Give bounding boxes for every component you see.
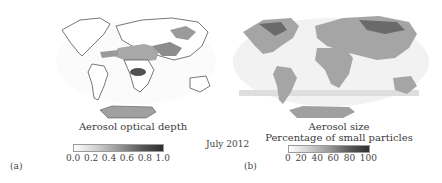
panel-a: Aerosol optical depth 0.0 0.2 0.4 0.6 0.…	[0, 0, 221, 183]
panel-b-colorbar-ticks: 0 20 40 60 80 100	[285, 153, 377, 163]
tick: 100	[360, 153, 377, 163]
panel-b-label: (b)	[244, 161, 257, 171]
tick: 0.8	[138, 153, 152, 163]
panel-a-colorbar-ticks: 0.0 0.2 0.4 0.6 0.8 1.0	[66, 153, 170, 163]
panel-b-title-line1: Aerosol size	[276, 121, 402, 132]
tick: 0.6	[120, 153, 134, 163]
tick: 0.4	[102, 153, 116, 163]
tick: 0.2	[84, 153, 98, 163]
panel-a-colorbar	[73, 144, 164, 152]
panel-b-title-line2: Percentage of small particles	[256, 132, 422, 143]
panel-a-label: (a)	[10, 161, 22, 171]
tick: 40	[311, 153, 322, 163]
tick: 0	[285, 153, 291, 163]
world-map-aerosol-optical-depth	[52, 12, 220, 120]
tick: 0.0	[66, 153, 80, 163]
tick: 80	[344, 153, 355, 163]
tick: 20	[295, 153, 306, 163]
world-map-aerosol-size	[229, 12, 433, 120]
panel-b: Aerosol size Percentage of small particl…	[221, 0, 442, 183]
tick: 1.0	[156, 153, 170, 163]
tick: 60	[328, 153, 339, 163]
panel-a-title: Aerosol optical depth	[70, 121, 196, 132]
panel-b-colorbar	[288, 145, 370, 153]
